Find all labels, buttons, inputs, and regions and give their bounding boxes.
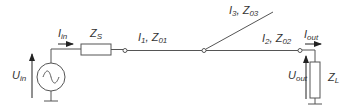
output-wire: [302, 50, 315, 62]
load-impedance-zl: [310, 62, 320, 98]
label-line-2: I2, Z02: [262, 33, 291, 46]
label-z-l-sub: L: [335, 76, 339, 85]
label-line-1: I1, Z01: [138, 32, 167, 45]
node-out: [298, 49, 302, 53]
sine-wave-icon: [43, 71, 59, 83]
label-i-out: Iout: [304, 29, 318, 42]
label-z-s-main: Z: [90, 27, 97, 39]
label-u-in: Uin: [12, 70, 26, 83]
junction-node: [202, 49, 206, 53]
label-u-in-main: U: [12, 69, 20, 81]
label-u-in-sub: in: [20, 74, 26, 83]
label-i-out-sub: out: [307, 33, 318, 42]
circuit-diagram: [0, 0, 358, 111]
label-line-3: I3, Z03: [229, 5, 258, 18]
label-u-out: Uout: [288, 70, 307, 83]
source-lead-wire: [51, 49, 81, 63]
label-i-in-sub: in: [61, 32, 67, 41]
label-line3-z-sub: 03: [249, 9, 258, 18]
label-z-l-main: Z: [328, 71, 335, 83]
label-z-s-sub: S: [97, 32, 102, 41]
label-u-out-sub: out: [296, 74, 307, 83]
label-u-out-main: U: [288, 69, 296, 81]
label-z-l: ZL: [328, 72, 339, 85]
label-i-in: Iin: [58, 28, 67, 41]
source-impedance-zs: [81, 44, 111, 55]
label-line2-z-sub: 02: [282, 37, 291, 46]
node-1: [123, 49, 127, 53]
label-z-s: ZS: [90, 28, 102, 41]
label-line1-z-sub: 01: [158, 36, 167, 45]
